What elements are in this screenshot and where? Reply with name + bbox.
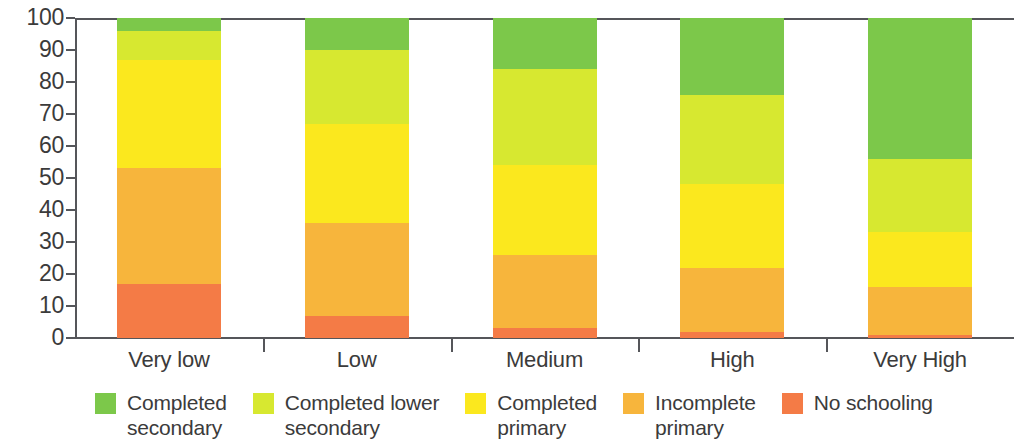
bar-segment (117, 18, 221, 31)
bar-segment (868, 287, 972, 335)
bar-segment (305, 124, 409, 223)
y-axis-tick (66, 49, 75, 51)
bar-segment (680, 332, 784, 338)
y-axis-tick (66, 145, 75, 147)
y-axis-tick-label: 90 (6, 38, 64, 61)
y-axis-tick (66, 241, 75, 243)
x-axis-category-label: Low (263, 347, 451, 373)
legend-swatch-icon (253, 393, 274, 414)
y-axis-tick-label: 50 (6, 166, 64, 189)
bar-segment (868, 18, 972, 159)
y-axis-tick (66, 17, 75, 19)
y-axis-tick-label: 100 (6, 6, 64, 29)
x-axis-category-label: Medium (451, 347, 639, 373)
y-axis: 0102030405060708090100 (0, 0, 64, 441)
bar-segment (868, 335, 972, 338)
stacked-bar (117, 18, 221, 338)
bar-segment (493, 69, 597, 165)
y-axis-tick (66, 337, 75, 339)
legend-item[interactable]: Completed lower secondary (253, 390, 440, 440)
x-axis-category-label: Very High (826, 347, 1014, 373)
stacked-bar (305, 18, 409, 338)
bar-segment (493, 255, 597, 329)
y-axis-tick (66, 305, 75, 307)
bar-segment (493, 165, 597, 255)
bar-segment (305, 50, 409, 124)
bar-segment (305, 18, 409, 50)
bar-segment (305, 316, 409, 338)
bar-segment (117, 60, 221, 169)
y-axis-tick-label: 80 (6, 70, 64, 93)
legend-label: Completed lower secondary (285, 390, 440, 440)
x-axis-category-label: High (638, 347, 826, 373)
legend-swatch-icon (623, 393, 644, 414)
y-axis-tick (66, 177, 75, 179)
stacked-bar (493, 18, 597, 338)
y-axis-tick-label: 60 (6, 134, 64, 157)
bar-segment (117, 284, 221, 338)
x-axis-tick (451, 339, 453, 352)
bar-group (680, 18, 784, 338)
x-axis-tick (263, 339, 265, 352)
y-axis-tick-label: 0 (6, 326, 64, 349)
stacked-bar (868, 18, 972, 338)
plot-area (75, 18, 1010, 338)
bar-segment (680, 268, 784, 332)
bar-segment (680, 95, 784, 185)
bar-segment (117, 168, 221, 283)
y-axis-tick-label: 20 (6, 262, 64, 285)
bar-segment (493, 328, 597, 338)
bar-segment (117, 31, 221, 60)
bar-segment (493, 18, 597, 69)
legend-item[interactable]: Completed secondary (95, 390, 227, 440)
bar-group (493, 18, 597, 338)
stacked-bar (680, 18, 784, 338)
y-axis-tick-label: 70 (6, 102, 64, 125)
legend-swatch-icon (95, 393, 116, 414)
chart-legend: Completed secondaryCompleted lower secon… (95, 390, 959, 440)
y-axis-tick-label: 10 (6, 294, 64, 317)
legend-label: Incomplete primary (655, 390, 756, 440)
legend-label: Completed primary (497, 390, 597, 440)
x-axis-category-label: Very low (75, 347, 263, 373)
bar-group (305, 18, 409, 338)
legend-swatch-icon (782, 393, 803, 414)
legend-item[interactable]: No schooling (782, 390, 933, 415)
legend-item[interactable]: Incomplete primary (623, 390, 756, 440)
legend-label: No schooling (814, 390, 933, 415)
y-axis-tick (66, 113, 75, 115)
bar-segment (868, 159, 972, 233)
y-axis-tick-label: 30 (6, 230, 64, 253)
bar-group (868, 18, 972, 338)
legend-label: Completed secondary (127, 390, 227, 440)
y-axis-tick (66, 273, 75, 275)
x-axis-tick (638, 339, 640, 352)
bar-group (117, 18, 221, 338)
y-axis-tick-label: 40 (6, 198, 64, 221)
bar-segment (680, 18, 784, 95)
bar-segment (868, 232, 972, 286)
legend-item[interactable]: Completed primary (465, 390, 597, 440)
y-axis-tick (66, 81, 75, 83)
bar-segment (305, 223, 409, 316)
x-axis-tick (826, 339, 828, 352)
bar-segment (680, 184, 784, 267)
legend-swatch-icon (465, 393, 486, 414)
y-axis-tick (66, 209, 75, 211)
stacked-bar-chart: 0102030405060708090100 Completed seconda… (0, 0, 1014, 441)
